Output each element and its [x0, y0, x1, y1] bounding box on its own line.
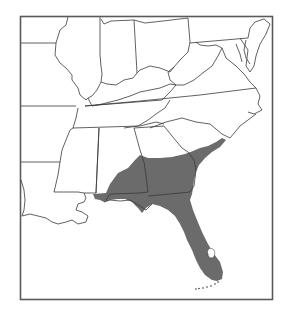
- lake-okeechobee: [207, 248, 214, 258]
- map-svg: [0, 0, 285, 309]
- range-map: [0, 0, 285, 309]
